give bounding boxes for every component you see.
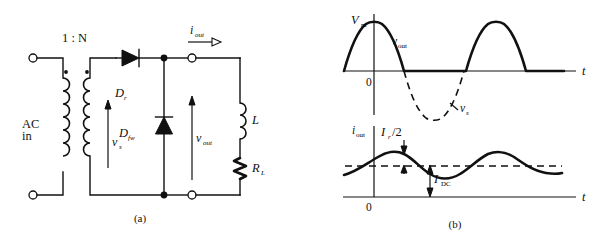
top-plot-y-label-sub: m xyxy=(361,21,367,29)
secondary-voltage-label-sub: s xyxy=(119,143,122,151)
secondary-voltage-label: v xyxy=(112,135,118,149)
output-terminal-top xyxy=(188,54,196,62)
figure-container: AC in 1 : N v s D r D fw v out i out L R… xyxy=(0,0,597,240)
wire-primary-bottom xyxy=(37,172,63,195)
dc-label-sub: DC xyxy=(441,180,451,188)
ripple-label: I xyxy=(380,125,386,139)
output-current-label-sub: out xyxy=(195,31,205,39)
inductor-winding xyxy=(240,103,246,139)
ac-source-label-line2: in xyxy=(22,129,32,143)
load-resistor-symbol xyxy=(234,158,246,179)
load-resistor-label: R xyxy=(251,161,260,175)
polarity-dot-secondary xyxy=(85,70,89,74)
turns-ratio-label: 1 : N xyxy=(62,31,87,45)
caption-a: (a) xyxy=(134,212,147,225)
ripple-label-tail: /2 xyxy=(392,125,402,139)
diode-r-triangle xyxy=(122,50,139,66)
bottom-plot: i out 0 t I r /2 I DC xyxy=(343,124,586,213)
iout-waveform xyxy=(344,152,562,179)
wire-secondary-top xyxy=(90,58,116,78)
bottom-plot-y-label-sub: out xyxy=(356,131,365,139)
vout-waveform xyxy=(344,22,564,71)
output-voltage-label-sub: out xyxy=(203,139,213,147)
wire-primary-top xyxy=(37,58,63,78)
idc-arrow-head-bottom xyxy=(427,188,433,197)
vout-curve-label-sub: out xyxy=(398,42,407,50)
transformer-secondary-winding xyxy=(84,78,91,156)
load-resistor-label-sub: L xyxy=(260,169,265,177)
top-plot-origin-label: 0 xyxy=(366,76,372,88)
diode-fw-triangle xyxy=(156,117,173,134)
inductor-label: L xyxy=(251,113,259,127)
panel-b-waveforms: V m 0 t v out v s xyxy=(343,13,586,231)
bottom-plot-y-label: i xyxy=(352,124,355,136)
output-voltage-label: v xyxy=(196,131,202,145)
rectifier-diode-label: D xyxy=(114,86,124,100)
rectifier-diode-label-sub: r xyxy=(124,94,127,102)
vs-arrow-head xyxy=(105,100,111,109)
output-current-label: i xyxy=(190,23,193,37)
top-plot-x-label: t xyxy=(582,64,586,78)
top-plot: V m 0 t v out v s xyxy=(343,13,586,120)
iout-arrow-head xyxy=(212,38,221,46)
transformer-primary-winding xyxy=(63,78,70,156)
panel-a-circuit: AC in 1 : N v s D r D fw v out i out L R… xyxy=(22,23,265,225)
polarity-dot-primary xyxy=(64,70,68,74)
bottom-plot-x-label: t xyxy=(582,190,586,204)
ac-terminal-top xyxy=(29,54,37,62)
figure-svg: AC in 1 : N v s D r D fw v out i out L R… xyxy=(0,0,597,240)
vs-curve-label-sub: s xyxy=(466,109,469,117)
top-plot-y-label: V xyxy=(351,13,360,27)
freewheel-diode-label-sub: fw xyxy=(128,134,135,142)
ripple-label-sub: r xyxy=(388,133,391,141)
dc-label: I xyxy=(433,172,439,186)
vs-waveform-dashed xyxy=(404,71,464,120)
bottom-plot-origin-label: 0 xyxy=(366,201,372,213)
freewheel-diode-label: D xyxy=(118,126,128,140)
vout-arrow-head xyxy=(189,96,195,105)
output-terminal-bottom xyxy=(188,191,196,199)
wire-secondary-bottom xyxy=(90,156,164,195)
caption-b: (b) xyxy=(449,218,462,231)
ac-terminal-bottom xyxy=(29,191,37,199)
